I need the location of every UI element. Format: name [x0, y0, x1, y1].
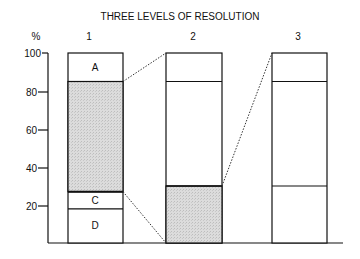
y-axis	[38, 53, 48, 243]
y-tick-60: 60	[26, 125, 38, 136]
y-tick-80: 80	[26, 87, 38, 98]
bar-1-shaded-segment	[68, 82, 123, 192]
y-tick-20: 20	[26, 201, 38, 212]
y-tick-100: 100	[24, 48, 41, 59]
segment-label-c: C	[91, 195, 98, 206]
connector-1-top	[123, 53, 166, 82]
bar-2	[166, 53, 222, 243]
connector-2-top	[222, 53, 272, 186]
bar-1	[68, 53, 123, 243]
chart-title: THREE LEVELS OF RESOLUTION	[101, 11, 260, 22]
y-unit-label: %	[32, 31, 41, 42]
bar-3	[272, 53, 327, 243]
segment-label-a: A	[92, 62, 99, 73]
chart-canvas: THREE LEVELS OF RESOLUTION % 1 2 3 100 8…	[0, 0, 360, 259]
connector-1-bottom	[123, 192, 166, 243]
y-tick-40: 40	[26, 163, 38, 174]
bar-1-header: 1	[86, 31, 92, 42]
bar-3-header: 3	[295, 31, 301, 42]
bar-2-header: 2	[190, 31, 196, 42]
bar-2-shaded-segment	[166, 186, 222, 243]
segment-label-d: D	[91, 220, 98, 231]
